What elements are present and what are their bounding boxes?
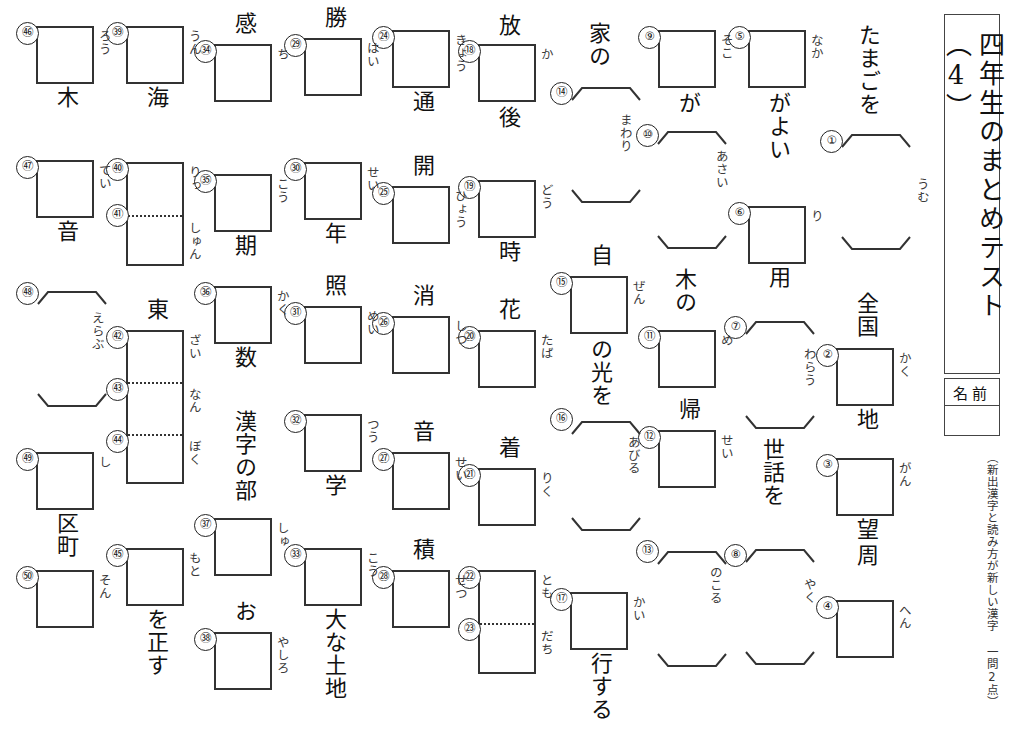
- name-input-field[interactable]: [944, 406, 1000, 436]
- problem-36-number: ㊲: [194, 514, 217, 537]
- problem-15-number: ⑮: [550, 272, 573, 295]
- problem-14-number: ⑭: [550, 82, 573, 105]
- problem-46-answer-box[interactable]: [36, 570, 94, 628]
- problem-13-number: ⑬: [636, 540, 659, 563]
- problem-37-answer-box[interactable]: [214, 632, 272, 690]
- problem-46-number: ㊿: [16, 566, 39, 589]
- problem-30-reading: めい: [365, 310, 378, 336]
- problem-12-lead-text: 帰: [676, 398, 698, 421]
- problem-43-answer-box[interactable]: [36, 160, 94, 218]
- problem-6-trail-text: 用: [766, 266, 788, 289]
- problem-40-reading: ざい: [187, 334, 200, 360]
- problem-3-answer-box[interactable]: [836, 458, 894, 516]
- problem-30-answer-box[interactable]: [304, 306, 362, 364]
- problem-24-answer-box[interactable]: [392, 186, 450, 244]
- worksheet-page: 四年生のまとめテスト（4） 名前 （新出漢字と読み方が新しい漢字 一問2点） た…: [0, 0, 1014, 740]
- problem-38-answer-box[interactable]: [126, 26, 184, 84]
- problem-24-lead-text: 開: [410, 154, 432, 177]
- title-box: 四年生のまとめテスト（4）: [944, 14, 1000, 374]
- problem-1-answer-bracket[interactable]: [840, 133, 912, 251]
- problem-42-answer-box[interactable]: [36, 26, 94, 84]
- problem-2-answer-box[interactable]: [836, 348, 894, 406]
- problem-38-trail-text: 海: [144, 86, 166, 109]
- problem-3-trail-text: 望: [854, 518, 876, 541]
- problem-2-reading: かく: [897, 352, 910, 378]
- problem-25-answer-box[interactable]: [392, 316, 450, 374]
- problem-9-answer-box[interactable]: [658, 30, 716, 88]
- problem-22-reading-2: だち: [539, 630, 552, 656]
- problem-26-answer-box[interactable]: [392, 452, 450, 510]
- problem-41-answer-box[interactable]: [126, 548, 184, 606]
- problem-44-reading: えらぶ: [90, 312, 103, 351]
- problem-40-answer-box[interactable]: [126, 330, 184, 484]
- problem-4-answer-box[interactable]: [836, 600, 894, 658]
- problem-40-reading-2: なん: [187, 388, 200, 414]
- problem-15-answer-box[interactable]: [570, 276, 628, 334]
- problem-11-reading: め: [719, 334, 732, 347]
- problem-40-number-2: ㊸: [106, 378, 129, 401]
- problem-22-box-divider: [480, 623, 534, 625]
- problem-37-reading: やしろ: [275, 636, 288, 675]
- problem-19-reading: どう: [539, 184, 552, 210]
- problem-16-number: ⑯: [550, 408, 573, 431]
- problem-32-trail-text: 大な土地: [322, 608, 344, 700]
- problem-1-reading: うむ: [915, 178, 928, 204]
- problem-28-reading: はい: [365, 42, 378, 68]
- problem-39-answer-box[interactable]: [126, 162, 184, 266]
- problem-11-answer-box[interactable]: [658, 330, 716, 388]
- problem-3-reading: がん: [897, 462, 910, 488]
- problem-36-answer-box[interactable]: [214, 518, 272, 576]
- problem-12-answer-box[interactable]: [658, 430, 716, 488]
- problem-11-number: ⑪: [638, 326, 661, 349]
- problem-40-number: ㊷: [106, 326, 129, 349]
- problem-22-answer-box[interactable]: [478, 570, 536, 674]
- problem-7-trail-text: 世話を: [760, 438, 782, 507]
- problem-33-answer-box[interactable]: [214, 44, 272, 102]
- problem-26-reading: せい: [453, 456, 466, 482]
- problem-6-reading: り: [809, 210, 822, 223]
- problem-25-reading: しつ: [453, 320, 466, 346]
- problem-28-answer-box[interactable]: [304, 38, 362, 96]
- problem-9-number: ⑨: [638, 26, 661, 49]
- problem-17-answer-box[interactable]: [570, 592, 628, 650]
- problem-33-reading: ち: [275, 48, 288, 61]
- problem-45-answer-box[interactable]: [36, 452, 94, 510]
- problem-6-number: ⑥: [728, 202, 751, 225]
- problem-4-number: ④: [816, 596, 839, 619]
- problem-18-answer-box[interactable]: [478, 44, 536, 102]
- problem-33-lead-text: 感: [232, 12, 254, 35]
- problem-29-answer-box[interactable]: [304, 162, 362, 220]
- problem-34-answer-box[interactable]: [214, 174, 272, 232]
- problem-41-reading: もと: [187, 552, 200, 578]
- problem-32-answer-box[interactable]: [304, 548, 362, 606]
- problem-9-trail-text: が: [676, 92, 698, 115]
- problem-39-number-2: ㊶: [106, 204, 129, 227]
- problem-32-reading: こう: [365, 552, 378, 578]
- problem-31-answer-box[interactable]: [304, 414, 362, 472]
- problem-1-number: ①: [820, 130, 843, 153]
- problem-8-answer-bracket[interactable]: [744, 548, 816, 666]
- problem-19-answer-box[interactable]: [478, 180, 536, 238]
- problem-40-number-3: ㊹: [106, 430, 129, 453]
- problem-10-answer-bracket[interactable]: [656, 130, 728, 250]
- problem-45-reading: し: [97, 456, 110, 469]
- problem-21-answer-box[interactable]: [478, 468, 536, 526]
- problem-4-reading: へん: [897, 604, 910, 630]
- problem-35-answer-box[interactable]: [214, 286, 272, 344]
- problem-27-answer-box[interactable]: [392, 570, 450, 628]
- name-label: 名前: [953, 382, 991, 403]
- problem-20-answer-box[interactable]: [478, 330, 536, 388]
- problem-14-reading: まわり: [618, 114, 631, 153]
- problem-5-answer-box[interactable]: [748, 30, 806, 88]
- problem-15-reading: ぜん: [631, 280, 644, 306]
- problem-31-trail-text: 学: [322, 474, 344, 497]
- problem-41-number: ㊺: [106, 544, 129, 567]
- scoring-note: （新出漢字と読み方が新しい漢字 一問2点）: [985, 452, 998, 708]
- problem-28-lead-text: 勝: [322, 6, 344, 29]
- problem-23-answer-box[interactable]: [392, 30, 450, 88]
- problem-22-reading: とも: [539, 574, 552, 600]
- problem-37-number: ㊳: [194, 628, 217, 651]
- problem-21-reading: りく: [539, 472, 552, 498]
- problem-6-answer-box[interactable]: [748, 206, 806, 264]
- problem-10-reading: あさい: [714, 150, 727, 189]
